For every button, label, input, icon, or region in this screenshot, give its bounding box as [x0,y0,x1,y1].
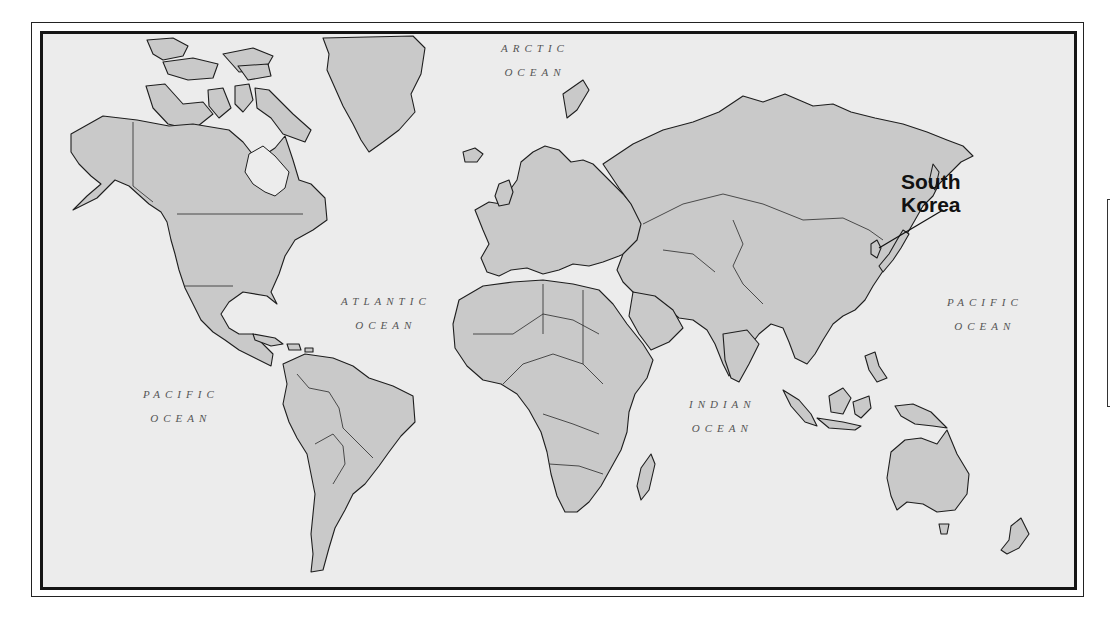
ocean-label-line: PACIFIC [947,290,1023,314]
callout-line: Korea [901,193,961,216]
ocean-label-pacific-east: PACIFIC OCEAN [947,290,1023,338]
world-map [43,34,1074,587]
callout-line: South [901,170,961,193]
madagascar [637,454,655,500]
greenland [323,36,425,152]
new-zealand [1001,518,1029,554]
callout-label-south-korea: South Korea [901,170,961,216]
south-america [283,354,415,572]
tasmania [939,524,949,534]
ocean-label-line: OCEAN [341,313,431,337]
map-canvas: ARCTIC OCEAN ATLANTIC OCEAN PACIFIC OCEA… [40,31,1077,590]
north-america [71,116,327,366]
ocean-label-arctic: ARCTIC OCEAN [501,36,569,84]
iceland [463,148,483,162]
ocean-label-atlantic: ATLANTIC OCEAN [341,289,431,337]
australia [887,430,969,512]
scandinavia-isle [563,80,589,118]
ocean-label-line: INDIAN [689,392,756,416]
ocean-label-line: OCEAN [689,416,756,440]
ocean-label-line: OCEAN [143,406,219,430]
ocean-label-line: PACIFIC [143,382,219,406]
ocean-label-pacific-west: PACIFIC OCEAN [143,382,219,430]
africa [453,280,653,512]
ocean-label-indian: INDIAN OCEAN [689,392,756,440]
ocean-label-line: ARCTIC [501,36,569,60]
ocean-label-line: OCEAN [947,314,1023,338]
ocean-label-line: ATLANTIC [341,289,431,313]
ocean-label-line: OCEAN [501,60,569,84]
